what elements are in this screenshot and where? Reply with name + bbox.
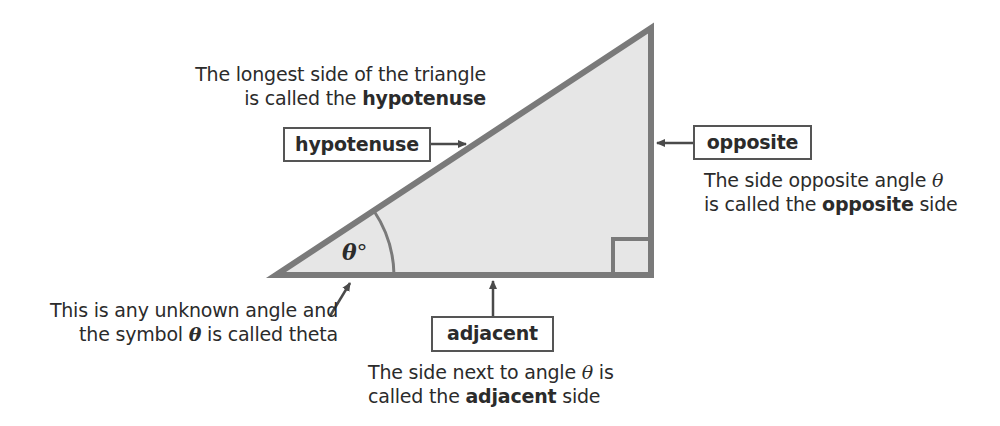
opposite-label-box: opposite bbox=[693, 125, 812, 160]
adjacent-desc-line2: called the adjacent side bbox=[368, 384, 614, 408]
adjacent-label-box: adjacent bbox=[431, 316, 554, 352]
opposite-desc-line2: is called the opposite side bbox=[704, 192, 958, 216]
adjacent-desc-line1: The side next to angle θ is bbox=[368, 360, 614, 384]
theta-desc-line1: This is any unknown angle and bbox=[0, 298, 338, 322]
hypotenuse-description: The longest side of the triangle is call… bbox=[150, 62, 486, 110]
opposite-description: The side opposite angle θ is called the … bbox=[704, 168, 958, 216]
hypotenuse-label-box: hypotenuse bbox=[283, 127, 431, 162]
hypotenuse-desc-line1: The longest side of the triangle bbox=[150, 62, 486, 86]
adjacent-description: The side next to angle θ is called the a… bbox=[368, 360, 614, 408]
opposite-desc-line1: The side opposite angle θ bbox=[704, 168, 958, 192]
hypotenuse-desc-line2: is called the hypotenuse bbox=[150, 86, 486, 110]
theta-description: This is any unknown angle and the symbol… bbox=[0, 298, 338, 346]
degree-symbol: ° bbox=[356, 240, 367, 265]
angle-label: θ° bbox=[342, 240, 367, 265]
theta-desc-line2: the symbol θ is called theta bbox=[0, 322, 338, 346]
theta-symbol: θ bbox=[342, 239, 356, 265]
